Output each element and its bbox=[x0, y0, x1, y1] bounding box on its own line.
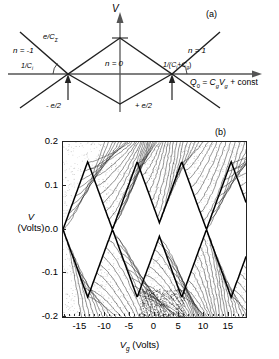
measurement-noise-speck bbox=[152, 148, 153, 149]
measurement-noise-speck bbox=[99, 291, 100, 292]
measurement-noise-speck bbox=[173, 303, 174, 304]
measurement-noise-speck bbox=[158, 169, 159, 170]
measurement-noise-speck bbox=[169, 307, 170, 308]
x-minor-tick-mark bbox=[74, 314, 75, 316]
measurement-noise-speck bbox=[182, 310, 183, 311]
measurement-noise-speck bbox=[160, 254, 161, 255]
measurement-noise-speck bbox=[167, 307, 168, 308]
measurement-noise-speck bbox=[164, 248, 165, 249]
measurement-noise-speck bbox=[130, 157, 131, 158]
measurement-noise-speck bbox=[159, 216, 160, 217]
measurement-noise-speck bbox=[70, 266, 71, 267]
measurement-noise-speck bbox=[155, 187, 156, 188]
measurement-noise-speck bbox=[156, 301, 157, 302]
measurement-noise-speck bbox=[67, 242, 68, 243]
measurement-noise-speck bbox=[167, 316, 168, 317]
measurement-noise-speck bbox=[148, 275, 149, 276]
measurement-noise-speck bbox=[145, 292, 146, 293]
measurement-noise-speck bbox=[186, 289, 187, 290]
measurement-noise-speck bbox=[141, 312, 142, 313]
measurement-noise-speck bbox=[145, 301, 146, 302]
iv-trace bbox=[90, 142, 132, 169]
measurement-noise-speck bbox=[215, 185, 216, 186]
measurement-noise-speck bbox=[184, 292, 185, 293]
measurement-noise-speck bbox=[182, 311, 183, 312]
measurement-noise-speck bbox=[153, 266, 154, 267]
measurement-noise-speck bbox=[142, 150, 143, 151]
measurement-noise-speck bbox=[205, 220, 206, 221]
measurement-noise-speck bbox=[213, 164, 214, 165]
measurement-noise-speck bbox=[185, 159, 186, 160]
measurement-noise-speck bbox=[166, 303, 167, 304]
measurement-noise-speck bbox=[213, 143, 214, 144]
measurement-noise-speck bbox=[196, 155, 197, 156]
measurement-noise-speck bbox=[224, 293, 225, 294]
measurement-noise-speck bbox=[203, 211, 204, 212]
measurement-noise-speck bbox=[79, 308, 80, 309]
measurement-noise-speck bbox=[112, 155, 113, 156]
measurement-noise-speck bbox=[112, 309, 113, 310]
measurement-noise-speck bbox=[163, 157, 164, 158]
measurement-noise-speck bbox=[210, 254, 211, 255]
measurement-noise-speck bbox=[73, 151, 74, 152]
measurement-noise-speck bbox=[149, 164, 150, 165]
measurement-noise-speck bbox=[156, 305, 157, 306]
measurement-noise-speck bbox=[82, 298, 83, 299]
measurement-noise-speck bbox=[125, 306, 126, 307]
measurement-noise-speck bbox=[210, 171, 211, 172]
measurement-noise-speck bbox=[217, 159, 218, 160]
measurement-noise-speck bbox=[71, 275, 72, 276]
measurement-noise-speck bbox=[146, 297, 147, 298]
measurement-noise-speck bbox=[217, 283, 218, 284]
measurement-noise-speck bbox=[140, 313, 141, 314]
measurement-noise-speck bbox=[168, 185, 169, 186]
measurement-noise-speck bbox=[156, 307, 157, 308]
measurement-noise-speck bbox=[89, 312, 90, 313]
measurement-noise-speck bbox=[96, 147, 97, 148]
measurement-noise-speck bbox=[137, 161, 138, 162]
measurement-noise-speck bbox=[127, 143, 128, 144]
measurement-noise-speck bbox=[156, 260, 157, 261]
measurement-noise-speck bbox=[200, 145, 201, 146]
measurement-noise-speck bbox=[159, 146, 160, 147]
measurement-noise-speck bbox=[153, 195, 154, 196]
measurement-noise-speck bbox=[112, 285, 113, 286]
measurement-noise-speck bbox=[110, 282, 111, 283]
measurement-noise-speck bbox=[156, 153, 157, 154]
measurement-noise-speck bbox=[86, 154, 87, 155]
measurement-noise-speck bbox=[123, 308, 124, 309]
measurement-noise-speck bbox=[153, 304, 154, 305]
measurement-noise-speck bbox=[98, 155, 99, 156]
measurement-noise-speck bbox=[63, 266, 64, 267]
measurement-noise-speck bbox=[68, 154, 69, 155]
measurement-noise-speck bbox=[220, 283, 221, 284]
measurement-noise-speck bbox=[142, 302, 143, 303]
x-minor-tick-mark bbox=[149, 314, 150, 316]
measurement-noise-speck bbox=[219, 162, 220, 163]
measurement-noise-speck bbox=[135, 152, 136, 153]
measurement-noise-speck bbox=[213, 258, 214, 259]
measurement-noise-speck bbox=[135, 145, 136, 146]
measurement-noise-speck bbox=[153, 290, 154, 291]
measurement-noise-speck bbox=[223, 179, 224, 180]
measurement-noise-speck bbox=[80, 171, 81, 172]
measurement-noise-speck bbox=[146, 308, 147, 309]
measurement-noise-speck bbox=[162, 298, 163, 299]
measurement-noise-speck bbox=[186, 150, 187, 151]
measurement-noise-speck bbox=[220, 276, 221, 277]
measurement-noise-speck bbox=[140, 155, 141, 156]
measurement-noise-speck bbox=[165, 207, 166, 208]
measurement-noise-speck bbox=[193, 143, 194, 144]
measurement-noise-speck bbox=[189, 301, 190, 302]
measurement-noise-speck bbox=[74, 308, 75, 309]
measurement-noise-speck bbox=[66, 298, 67, 299]
measurement-noise-speck bbox=[163, 285, 164, 286]
x-minor-tick-mark bbox=[139, 314, 140, 316]
measurement-noise-speck bbox=[225, 286, 226, 287]
measurement-noise-speck bbox=[128, 149, 129, 150]
measurement-noise-speck bbox=[89, 303, 90, 304]
measurement-noise-speck bbox=[157, 297, 158, 298]
measurement-noise-speck bbox=[145, 302, 146, 303]
measurement-noise-speck bbox=[146, 297, 147, 298]
measurement-noise-speck bbox=[213, 248, 214, 249]
